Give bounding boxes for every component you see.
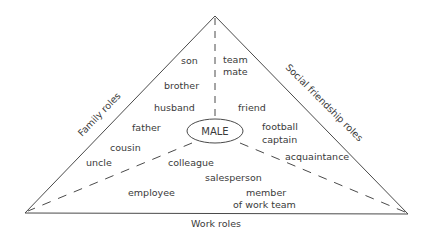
role-cousin: cousin (110, 142, 141, 153)
role-football: football (262, 121, 298, 132)
role-triangle-diagram: MALE Family roles Social friendship role… (0, 0, 430, 233)
role-colleague: colleague (168, 157, 214, 168)
divider-left (28, 143, 192, 211)
role-acquaintance: acquaintance (285, 151, 349, 162)
edge-label-work: Work roles (191, 218, 241, 229)
edge-label-family: Family roles (76, 90, 123, 138)
role-brother: brother (164, 80, 199, 91)
role-friend: friend (238, 102, 266, 113)
role-member: member (246, 187, 286, 198)
role-uncle: uncle (86, 157, 112, 168)
role-of-work-team: of work team (233, 199, 296, 210)
role-team: team (223, 54, 248, 65)
role-salesperson: salesperson (205, 172, 262, 183)
triangle-outline (25, 16, 408, 214)
role-mate: mate (223, 66, 248, 77)
role-employee: employee (128, 187, 175, 198)
center-label: MALE (201, 126, 228, 137)
role-captain: captain (262, 134, 297, 145)
role-son: son (181, 55, 198, 66)
role-husband: husband (154, 102, 195, 113)
role-father: father (132, 122, 161, 133)
